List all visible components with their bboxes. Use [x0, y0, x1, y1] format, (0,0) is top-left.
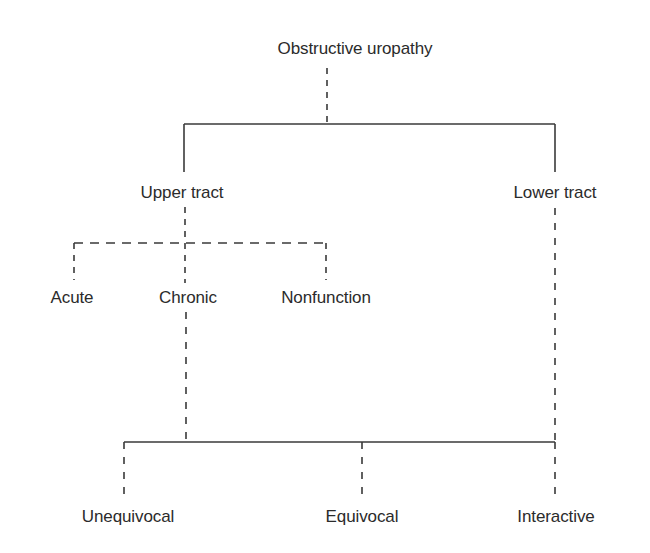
node-upper-tract: Upper tract: [141, 183, 224, 203]
node-acute: Acute: [51, 288, 94, 308]
node-interactive: Interactive: [517, 507, 594, 527]
node-equivocal: Equivocal: [326, 507, 399, 527]
diagram-connector-lines: [0, 0, 650, 553]
node-nonfunction: Nonfunction: [281, 288, 371, 308]
node-chronic: Chronic: [159, 288, 217, 308]
node-unequivocal: Unequivocal: [82, 507, 174, 527]
node-lower-tract: Lower tract: [514, 183, 597, 203]
node-obstructive-uropathy: Obstructive uropathy: [278, 39, 433, 59]
obstructive-uropathy-tree-diagram: Obstructive uropathy Upper tract Lower t…: [0, 0, 650, 553]
